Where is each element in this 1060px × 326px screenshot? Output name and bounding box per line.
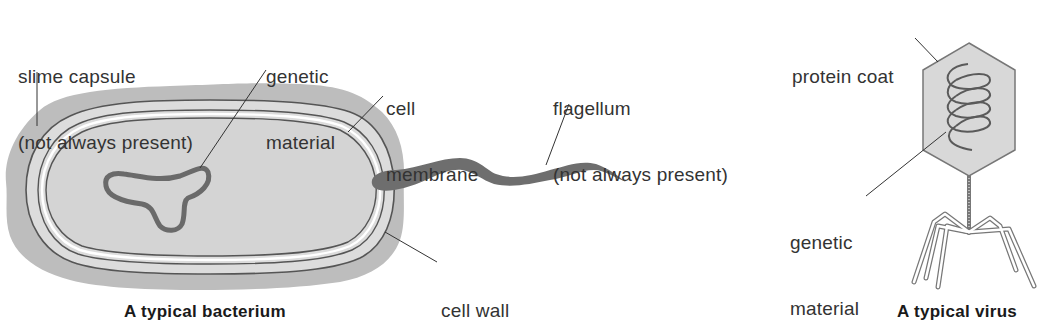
caption-bacterium: A typical bacterium — [124, 302, 286, 322]
label-genetic-line1: genetic — [266, 66, 335, 88]
label-cell-membrane: cell membrane — [386, 54, 478, 230]
caption-virus: A typical virus — [897, 302, 1017, 322]
label-virus-genetic-line1: genetic — [790, 232, 859, 254]
label-flagellum-line1: flagellum — [553, 98, 728, 120]
label-protein-coat-text: protein coat — [792, 66, 894, 88]
label-virus-genetic-material: genetic material — [790, 188, 859, 326]
label-slime-capsule-line2: (not always present) — [18, 132, 193, 154]
virus-tail-fibers — [914, 214, 1034, 287]
label-flagellum-line2: (not always present) — [553, 164, 728, 186]
label-bacterial-genetic-material: genetic material — [266, 22, 335, 198]
leader-protein-coat — [915, 38, 938, 62]
label-slime-capsule-line1: slime capsule — [18, 66, 193, 88]
label-cell-membrane-line2: membrane — [386, 164, 478, 186]
label-protein-coat: protein coat — [792, 22, 894, 132]
label-genetic-line2: material — [266, 132, 335, 154]
label-cell-wall: cell wall — [441, 256, 509, 326]
label-flagellum: flagellum (not always present) — [553, 54, 728, 230]
leader-virus-genetic-material — [866, 132, 946, 196]
label-virus-genetic-line2: material — [790, 298, 859, 320]
label-slime-capsule: slime capsule (not always present) — [18, 22, 193, 198]
diagram-stage: slime capsule (not always present) genet… — [0, 0, 1060, 326]
label-cell-wall-text: cell wall — [441, 300, 509, 322]
virus-illustration — [914, 43, 1034, 287]
label-cell-membrane-line1: cell — [386, 98, 478, 120]
protein-coat-shape — [923, 43, 1015, 176]
